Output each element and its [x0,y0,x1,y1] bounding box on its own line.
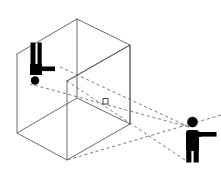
sight-ray-to-box-lower-front [67,81,185,160]
person-leg-left [186,145,191,163]
gripper-base-dot [31,76,39,84]
target-object-marker [103,99,108,105]
gripper-arm-bar [39,67,55,72]
scene-root [0,0,221,178]
robot-gripper [30,43,55,85]
scene-canvas [0,0,221,178]
person-pointing-arm [199,132,217,137]
gripper-finger-right-icon [38,43,42,67]
box-back-bottom-edges [17,98,130,133]
pointing-person [186,117,217,163]
person-leg-right [194,145,199,163]
workspace-box [17,19,130,160]
sight-ray-to-gripper-upper [58,66,189,127]
person-head-icon [187,117,198,128]
